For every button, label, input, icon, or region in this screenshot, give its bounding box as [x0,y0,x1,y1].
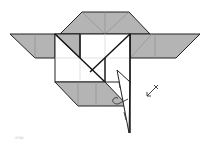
right-wing [130,34,200,58]
bottom-flap [55,82,128,106]
left-wing [10,34,55,58]
step-caption: step [15,135,24,140]
fold-arrow-icon [147,85,158,96]
origami-diagram [0,0,209,142]
